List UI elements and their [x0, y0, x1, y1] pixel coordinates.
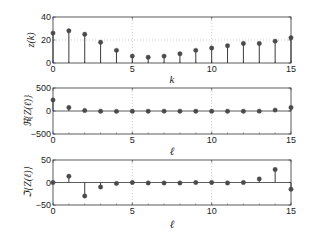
bottom-stem-marker [241, 180, 245, 184]
top-stem-marker [114, 48, 118, 52]
bottom-stem-marker [273, 167, 277, 171]
mid-stem-marker [209, 109, 213, 113]
mid-stem-marker [162, 109, 166, 113]
top-stem-marker [273, 39, 277, 43]
top-y-tick-label: 0 [46, 58, 51, 68]
mid-stem-marker [67, 105, 71, 109]
bottom-x-axis-label: ℓ [170, 218, 175, 230]
bottom-stem-marker [257, 177, 261, 181]
bottom-y-tick-label: 0 [46, 178, 51, 188]
mid-x-axis-label: ℓ [170, 145, 175, 157]
top-stem-marker [289, 36, 293, 40]
bottom-stem-marker [289, 187, 293, 191]
bottom-y-tick-label: 50 [41, 155, 51, 165]
mid-stem-marker [51, 98, 55, 102]
top-x-axis-label: k [170, 73, 176, 85]
top-x-tick-label: 15 [286, 64, 296, 74]
top-x-tick-label: 5 [130, 64, 135, 74]
mid-stem-marker [146, 109, 150, 113]
top-stem-marker [178, 52, 182, 56]
bottom-y-tick-label: −50 [36, 200, 51, 210]
mid-stem-marker [225, 109, 229, 113]
top-stem-marker [194, 48, 198, 52]
top-stem-marker [83, 32, 87, 36]
top-x-tick-label: 10 [207, 64, 217, 74]
top-stem-marker [225, 44, 229, 48]
top-stem-marker [209, 46, 213, 50]
bottom-x-tick-label: 5 [130, 206, 135, 216]
top-stem-marker [98, 40, 102, 44]
top-stem-marker [257, 41, 261, 45]
bottom-stem-plot: 051015−50050 [36, 155, 296, 216]
mid-y-tick-label: −500 [31, 129, 51, 139]
mid-x-tick-label: 0 [50, 135, 55, 145]
top-stem-marker [146, 55, 150, 59]
mid-stem-marker [194, 109, 198, 113]
bottom-stem-marker [209, 180, 213, 184]
mid-stem-plot: 051015−5000500 [31, 83, 296, 145]
bottom-stem-marker [162, 181, 166, 185]
figure-canvas: 05101502040051015−5000500051015−50050 z(… [0, 0, 309, 235]
bottom-x-tick-label: 15 [286, 206, 296, 216]
top-grid [53, 17, 291, 63]
bottom-stem-marker [67, 174, 71, 178]
mid-stem-marker [114, 109, 118, 113]
mid-stem-marker [257, 109, 261, 113]
mid-y-axis-label: ℜ{Z(ℓ)} [22, 95, 34, 127]
bottom-x-tick-label: 10 [207, 206, 217, 216]
top-stem-marker [130, 54, 134, 58]
bottom-stem-marker [146, 181, 150, 185]
top-stem-marker [162, 54, 166, 58]
bottom-stem-marker [178, 181, 182, 185]
bottom-stem-marker [98, 185, 102, 189]
bottom-stem-marker [130, 180, 134, 184]
mid-stem-marker [241, 109, 245, 113]
mid-stem-marker [130, 109, 134, 113]
mid-stem-marker [178, 109, 182, 113]
mid-x-tick-label: 5 [130, 135, 135, 145]
top-y-tick-label: 20 [41, 35, 51, 45]
top-stem-marker [67, 29, 71, 33]
bottom-stem-marker [51, 180, 55, 184]
stem-plot-figure: 05101502040051015−5000500051015−50050 z(… [0, 0, 309, 235]
mid-stem-marker [98, 109, 102, 113]
mid-y-tick-label: 0 [46, 106, 51, 116]
bottom-stem-marker [83, 194, 87, 198]
top-y-axis-label: z(k) [25, 32, 37, 49]
mid-stem-marker [83, 108, 87, 112]
bottom-stem-marker [114, 181, 118, 185]
top-stem-plot: 05101502040 [41, 12, 296, 74]
bottom-x-tick-label: 0 [50, 206, 55, 216]
bottom-stem-marker [194, 180, 198, 184]
mid-y-tick-label: 500 [36, 83, 51, 93]
top-axes-box [53, 17, 291, 63]
mid-x-tick-label: 15 [286, 135, 296, 145]
mid-stem-marker [289, 105, 293, 109]
bottom-stem-marker [225, 181, 229, 185]
top-stem-marker [241, 41, 245, 45]
top-y-tick-label: 40 [41, 12, 51, 22]
top-x-tick-label: 0 [50, 64, 55, 74]
mid-stem-marker [273, 108, 277, 112]
mid-x-tick-label: 10 [207, 135, 217, 145]
top-stem-marker [51, 31, 55, 35]
bottom-y-axis-label: ℑ{Z(ℓ)} [22, 166, 34, 197]
